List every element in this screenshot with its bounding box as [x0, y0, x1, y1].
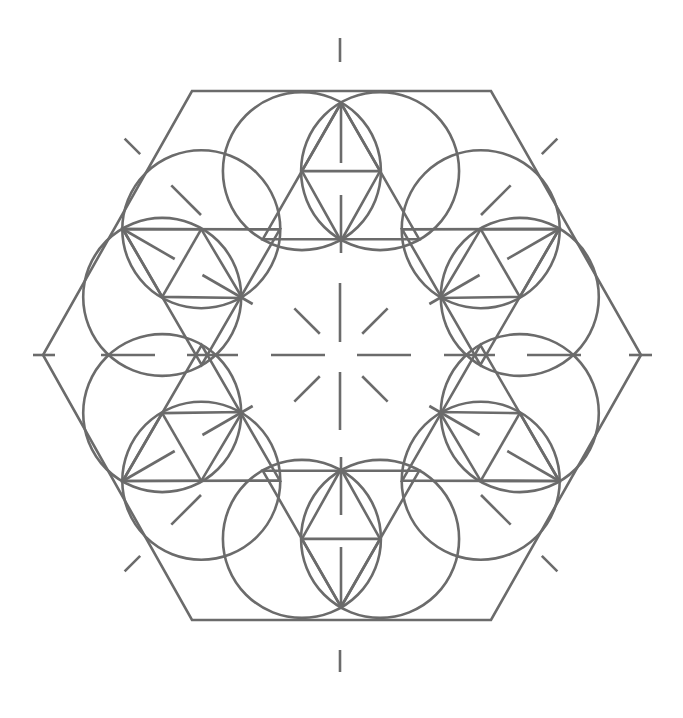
- geometric-diagram-canvas: [0, 0, 683, 718]
- sacred-geometry-diagram: [0, 0, 683, 718]
